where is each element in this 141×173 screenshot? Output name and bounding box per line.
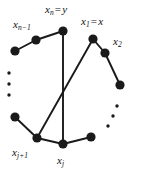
x-1-node (88, 34, 97, 43)
label-x-n-equals-y: xn=y (45, 4, 67, 16)
x-j-plus-1-node (32, 133, 41, 142)
cycle-edge-5 (105, 53, 120, 85)
left-lower-node (10, 112, 19, 121)
bottom-right-node (86, 132, 95, 141)
left-ellipsis-dot-0 (7, 71, 10, 74)
x-j-node (58, 139, 67, 148)
label-x-2: x2 (113, 36, 122, 48)
chord-x1-xjplus1 (37, 39, 93, 138)
label-x-n-minus-1: xn−1 (13, 19, 31, 31)
label-x-j-plus-1: xj+1 (12, 147, 28, 159)
left-ellipsis-dot-2 (7, 93, 10, 96)
right-ellipsis-dot-1 (111, 114, 114, 117)
right-lower-node (115, 80, 124, 89)
chords-layer (37, 31, 93, 144)
left-ellipsis-dot-1 (7, 82, 10, 85)
x-n-node (58, 26, 67, 35)
label-x-1-equals-x: x1=x (81, 16, 103, 28)
edges-layer (15, 31, 120, 144)
graph-figure: xn=y xn−1 x1=x x2 xj+1 xj (0, 0, 141, 173)
x-2-node (100, 48, 109, 57)
x-n-minus-1-node (31, 35, 40, 44)
label-x-j: xj (57, 155, 64, 167)
left-upper-node (10, 46, 19, 55)
right-ellipsis-dot-2 (106, 124, 109, 127)
right-ellipsis-dot-0 (115, 104, 118, 107)
